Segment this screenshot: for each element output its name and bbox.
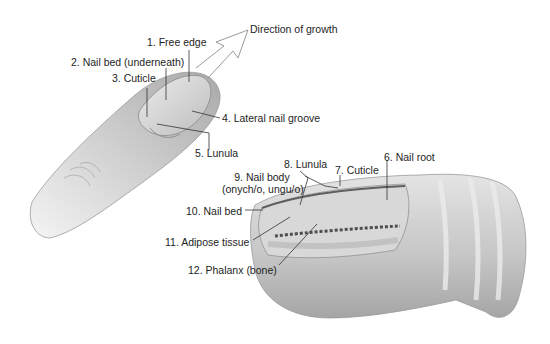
label-adipose-tissue: 11. Adipose tissue (165, 236, 249, 248)
label-nail-body-line1: 9. Nail body (222, 171, 302, 183)
label-nail-body: 9. Nail body (onych/o, ungu/o) (222, 171, 302, 195)
label-nail-root: 6. Nail root (384, 151, 435, 163)
label-direction-of-growth: Direction of growth (250, 23, 338, 35)
label-nail-body-line2: (onych/o, ungu/o) (222, 183, 302, 195)
label-cuticle-finger: 3. Cuticle (112, 72, 156, 84)
label-lunula-finger: 5. Lunula (195, 147, 238, 159)
label-nail-bed-section: 10. Nail bed (186, 205, 242, 217)
label-free-edge: 1. Free edge (147, 36, 207, 48)
label-phalanx-bone: 12. Phalanx (bone) (188, 264, 277, 276)
label-lateral-nail-groove: 4. Lateral nail groove (222, 112, 320, 124)
label-nail-bed-underneath: 2. Nail bed (underneath) (71, 56, 184, 68)
label-lunula-section: 8. Lunula (284, 158, 327, 170)
label-cuticle-section: 7. Cuticle (335, 164, 379, 176)
cross-section-illustration (250, 174, 525, 318)
